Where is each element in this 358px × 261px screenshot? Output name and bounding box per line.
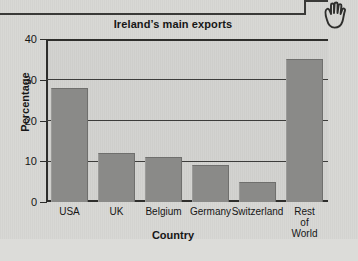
x-axis-tick-label: Belgium	[145, 206, 181, 217]
y-axis-tick	[40, 121, 47, 122]
gridline	[46, 39, 328, 41]
page-border-top	[0, 13, 305, 15]
bar	[98, 153, 136, 202]
x-axis-tick-label: UK	[110, 206, 124, 217]
y-axis-tick	[40, 202, 47, 203]
bar	[239, 182, 277, 202]
page-border-notch-vertical	[304, 0, 306, 15]
scanned-page: Ireland’s main exports Percentage Countr…	[0, 0, 358, 261]
y-axis-tick-label: 0	[31, 196, 37, 208]
bar-chart: Ireland’s main exports Percentage Countr…	[8, 18, 338, 240]
x-axis-tick-label: Germany	[190, 206, 231, 217]
x-axis-tick-label: Rest of World	[292, 206, 318, 239]
x-axis-label: Country	[8, 229, 338, 241]
y-axis-tick-label: 40	[25, 33, 37, 45]
y-axis-tick-label: 30	[25, 74, 37, 86]
x-axis-tick-label: USA	[59, 206, 80, 217]
y-axis-tick	[40, 39, 47, 40]
page-bottom-band	[0, 239, 358, 261]
y-axis-tick-label: 10	[25, 155, 37, 167]
y-axis-tick-label: 20	[25, 115, 37, 127]
bar	[192, 165, 230, 202]
y-axis-tick	[40, 161, 47, 162]
x-axis-tick-label: Switzerland	[232, 206, 284, 217]
plot-area: 010203040 USAUKBelgiumGermanySwitzerland…	[46, 39, 328, 202]
bar	[286, 59, 324, 202]
bar	[145, 157, 183, 202]
y-axis-tick	[40, 80, 47, 81]
y-axis-label: Percentage	[19, 47, 31, 157]
bar	[51, 88, 89, 202]
chart-title: Ireland’s main exports	[8, 18, 338, 30]
